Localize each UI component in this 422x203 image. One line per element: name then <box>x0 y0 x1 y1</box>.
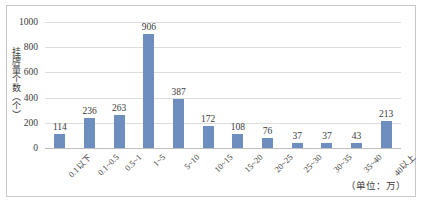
bar-slot: 108 <box>223 22 253 148</box>
x-label-slot: 0.5~1 <box>104 149 134 185</box>
bar-value-label: 213 <box>379 109 393 119</box>
x-label-slot: 15~20 <box>223 149 253 185</box>
bar-slot: 213 <box>371 22 401 148</box>
bar[interactable] <box>321 143 332 148</box>
bar-slot: 114 <box>45 22 75 148</box>
x-label-slot: 0.1以下 <box>45 149 75 185</box>
x-label-slot: 30~35 <box>312 149 342 185</box>
bar[interactable] <box>143 34 154 148</box>
bar-chart-figure: 挂牌量个数（个） 10008006004002000 1142362639063… <box>0 0 422 203</box>
x-label-slot: 0.1~0.5 <box>75 149 105 185</box>
bar-slot: 43 <box>342 22 372 148</box>
bar-slot: 172 <box>193 22 223 148</box>
x-label-slot: 20~25 <box>253 149 283 185</box>
x-label-slot: 35~40 <box>342 149 372 185</box>
bar-slot: 906 <box>134 22 164 148</box>
y-tick-label: 800 <box>24 42 38 52</box>
y-tick-label: 600 <box>24 67 38 77</box>
bar-value-label: 263 <box>112 103 126 113</box>
bar[interactable] <box>173 99 184 148</box>
unit-note: （单位：万） <box>346 181 406 192</box>
bar-value-label: 37 <box>322 131 332 141</box>
bar[interactable] <box>232 134 243 148</box>
bar-value-label: 76 <box>263 126 273 136</box>
y-axis-tick-labels: 10008006004002000 <box>0 22 41 148</box>
x-label-slot: 40以上 <box>371 149 401 185</box>
x-label-slot: 25~30 <box>282 149 312 185</box>
y-tick-label: 400 <box>24 93 38 103</box>
bar-value-label: 114 <box>53 122 67 132</box>
bar[interactable] <box>381 121 392 148</box>
bar-slot: 236 <box>75 22 105 148</box>
bar[interactable] <box>351 143 362 148</box>
bar[interactable] <box>292 143 303 148</box>
x-label-slot: 5~10 <box>164 149 194 185</box>
x-axis-category-labels: 0.1以下0.1~0.50.5~11~55~1010~1515~2020~252… <box>45 149 401 185</box>
bar[interactable] <box>114 115 125 148</box>
x-label-slot: 10~15 <box>193 149 223 185</box>
y-tick-label: 0 <box>33 143 38 153</box>
bar-value-label: 236 <box>82 106 96 116</box>
bar[interactable] <box>84 118 95 148</box>
bar-series: 11423626390638717210876373743213 <box>45 22 401 148</box>
plot-area: 11423626390638717210876373743213 <box>45 22 401 148</box>
y-tick-label: 1000 <box>19 17 38 27</box>
y-tick-label: 200 <box>24 118 38 128</box>
bar-value-label: 172 <box>201 114 215 124</box>
bar-value-label: 906 <box>142 22 156 32</box>
bar-value-label: 108 <box>231 122 245 132</box>
bar[interactable] <box>54 134 65 148</box>
bar[interactable] <box>262 138 273 148</box>
bar-slot: 76 <box>253 22 283 148</box>
x-label-slot: 1~5 <box>134 149 164 185</box>
bar-slot: 263 <box>104 22 134 148</box>
bar-value-label: 43 <box>352 131 362 141</box>
bar-slot: 387 <box>164 22 194 148</box>
bar-slot: 37 <box>312 22 342 148</box>
bar[interactable] <box>203 126 214 148</box>
bar-value-label: 387 <box>171 87 185 97</box>
bar-slot: 37 <box>282 22 312 148</box>
x-tick-label: 40以上 <box>392 152 418 178</box>
bar-value-label: 37 <box>292 131 302 141</box>
